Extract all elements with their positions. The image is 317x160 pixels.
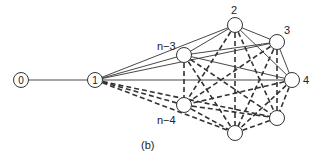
solid-edge-1-2 <box>95 25 235 80</box>
node-label-0: 0 <box>18 75 24 86</box>
nodes: 01n−3234n−4 <box>14 4 310 141</box>
node-label-4: 4 <box>303 74 309 86</box>
node-label-n-4: n−4 <box>157 114 176 126</box>
solid-edge-n-3-2 <box>184 25 235 55</box>
node-label-1: 1 <box>92 75 98 86</box>
node-3 <box>270 35 285 50</box>
node-label-2: 2 <box>231 4 237 16</box>
complete-graph-diagram: 01n−3234n−4 (b) <box>0 0 317 160</box>
node-label-n-3: n−3 <box>157 40 176 52</box>
dashed-edge-4-b6 <box>235 80 292 133</box>
node-n-4 <box>177 98 192 113</box>
solid-edge-n-3-4 <box>184 55 292 80</box>
solid-edge-1-n-3 <box>95 55 184 80</box>
solid-edges <box>21 25 292 80</box>
dashed-edge-n-4-b5 <box>184 105 277 118</box>
node-4 <box>285 73 300 88</box>
node-label-3: 3 <box>284 24 290 36</box>
node-n-3 <box>177 48 192 63</box>
node-b6 <box>228 126 243 141</box>
node-b5 <box>270 111 285 126</box>
solid-edge-n-3-3 <box>184 42 277 55</box>
node-2 <box>228 18 243 33</box>
dashed-edge-1-n-4 <box>95 80 184 105</box>
figure-caption: (b) <box>141 139 154 151</box>
